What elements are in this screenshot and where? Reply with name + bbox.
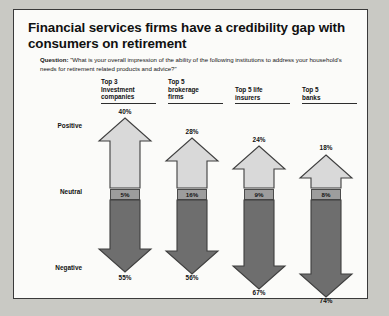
- row-label-neutral: Neutral: [22, 188, 82, 195]
- column-header-brokerage-firms: Top 5 brokerage firms: [168, 78, 224, 101]
- negative-arrow-banks: [297, 199, 355, 300]
- column-header-line-2: Investment: [101, 86, 157, 94]
- positive-value-banks: 18%: [306, 144, 346, 151]
- column-header-investment-companies: Top 3 Investment companies: [101, 78, 157, 101]
- positive-arrow-life-insurers: [230, 144, 288, 190]
- page-title: Financial services firms have a credibil…: [28, 20, 358, 51]
- positive-value-brokerage-firms: 28%: [172, 128, 212, 135]
- row-label-negative: Negative: [22, 264, 82, 271]
- slide-panel: Financial services firms have a credibil…: [13, 9, 368, 299]
- negative-value-banks: 74%: [306, 297, 346, 304]
- column-header-line-2: insurers: [235, 94, 291, 102]
- column-header-line-2: banks: [302, 94, 358, 102]
- question-label: Question:: [40, 56, 68, 63]
- negative-arrow-life-insurers: [230, 199, 288, 292]
- question-text: "What is your overall impression of the …: [40, 56, 342, 72]
- neutral-value-banks: 8%: [306, 191, 346, 198]
- column-rule-banks: [302, 103, 357, 104]
- column-header-line-3: companies: [101, 93, 157, 101]
- negative-value-investment-companies: 55%: [105, 274, 145, 281]
- negative-arrow-investment-companies: [96, 199, 154, 275]
- column-rule-investment-companies: [101, 103, 156, 104]
- column-header-line-3: firms: [168, 93, 224, 101]
- neutral-value-life-insurers: 9%: [239, 191, 279, 198]
- column-header-line-1: Top 5 life: [235, 86, 291, 94]
- negative-value-brokerage-firms: 56%: [172, 274, 212, 281]
- neutral-value-brokerage-firms: 16%: [172, 191, 212, 198]
- positive-value-investment-companies: 40%: [105, 108, 145, 115]
- question-block: Question: "What is your overall impressi…: [40, 56, 352, 73]
- column-header-line-1: Top 5: [168, 78, 224, 86]
- positive-arrow-banks: [297, 153, 355, 190]
- negative-arrow-brokerage-firms: [163, 199, 221, 277]
- positive-arrow-investment-companies: [96, 116, 154, 190]
- neutral-value-investment-companies: 5%: [105, 191, 145, 198]
- column-header-line-2: brokerage: [168, 86, 224, 94]
- column-header-line-1: Top 5: [302, 86, 358, 94]
- column-header-line-1: Top 3: [101, 78, 157, 86]
- negative-value-life-insurers: 67%: [239, 289, 279, 296]
- row-label-positive: Positive: [22, 122, 82, 129]
- positive-arrow-brokerage-firms: [163, 136, 221, 190]
- positive-value-life-insurers: 24%: [239, 136, 279, 143]
- column-header-life-insurers: Top 5 life insurers: [235, 86, 291, 101]
- column-rule-brokerage-firms: [168, 103, 223, 104]
- column-header-banks: Top 5 banks: [302, 86, 358, 101]
- column-rule-life-insurers: [235, 103, 290, 104]
